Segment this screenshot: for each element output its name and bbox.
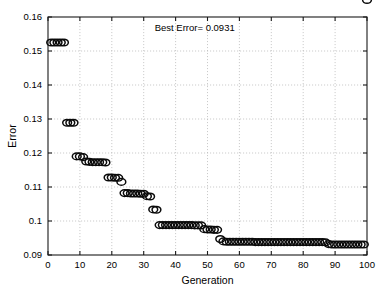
axis-ticks: 01020304050607080901000.090.10.110.120.1…: [24, 11, 375, 270]
x-tick-label: 60: [234, 259, 245, 270]
plot-frame: [48, 17, 367, 255]
x-tick-label: 70: [266, 259, 277, 270]
x-tick-label: 40: [170, 259, 181, 270]
x-tick-label: 80: [298, 259, 309, 270]
y-tick-label: 0.09: [24, 249, 43, 260]
x-tick-label: 50: [202, 259, 213, 270]
x-tick-label: 90: [330, 259, 341, 270]
y-axis-title: Error: [6, 124, 18, 148]
gridlines: [48, 17, 367, 255]
x-tick-label: 20: [107, 259, 118, 270]
chart-figure: 01020304050607080901000.090.10.110.120.1…: [0, 0, 392, 291]
x-tick-label: 0: [45, 259, 50, 270]
data-series: [47, 0, 372, 248]
x-tick-label: 100: [359, 259, 375, 270]
y-tick-label: 0.15: [24, 45, 43, 56]
y-tick-label: 0.13: [24, 113, 43, 124]
best-error-annotation: Best Error= 0.0931: [155, 22, 235, 33]
x-tick-label: 30: [138, 259, 149, 270]
y-tick-label: 0.12: [24, 147, 43, 158]
y-tick-label: 0.14: [24, 79, 43, 90]
y-tick-label: 0.11: [24, 181, 42, 192]
x-tick-label: 10: [75, 259, 86, 270]
x-axis-title: Generation: [182, 274, 234, 286]
y-tick-label: 0.1: [29, 215, 42, 226]
data-point: [363, 0, 372, 3]
y-tick-label: 0.16: [24, 11, 43, 22]
